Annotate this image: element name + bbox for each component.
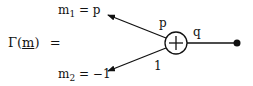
endpoint-dot bbox=[234, 40, 241, 47]
upper-edge-arrow bbox=[108, 15, 166, 38]
lower-edge-label: 1 bbox=[154, 60, 162, 72]
upper-edge-label: p bbox=[159, 17, 167, 29]
graph-diagram bbox=[0, 0, 253, 86]
right-edge-label: q bbox=[193, 26, 201, 38]
